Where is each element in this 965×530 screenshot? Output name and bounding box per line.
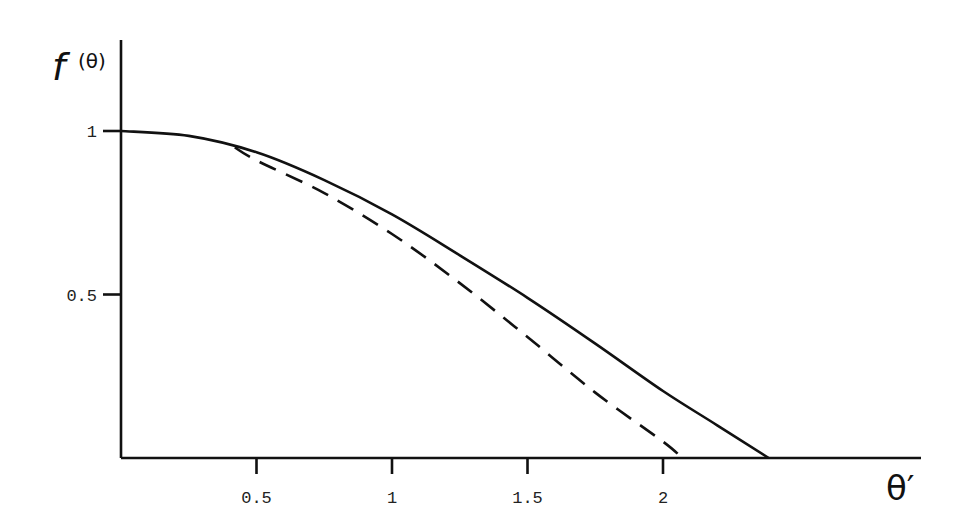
x-tick-label: 1 <box>387 489 397 508</box>
solid-curve <box>121 131 769 458</box>
x-tick-label: 0.5 <box>241 489 272 508</box>
dashed-curve <box>235 147 682 458</box>
ticks <box>103 131 663 474</box>
x-tick-label: 2 <box>658 489 668 508</box>
x-tick-label: 1.5 <box>512 489 543 508</box>
axes <box>121 40 921 458</box>
y-axis-label: f (θ) <box>52 45 106 89</box>
chart: 0.511.5210.5 f (θ) θ′ <box>0 0 965 530</box>
y-tick-label: 1 <box>87 123 97 142</box>
y-axis-label-f: f <box>52 45 71 89</box>
x-axis-label: θ′ <box>886 468 915 508</box>
y-axis-label-arg: (θ) <box>78 49 106 73</box>
tick-labels: 0.511.5210.5 <box>66 123 668 508</box>
y-tick-label: 0.5 <box>66 287 97 306</box>
